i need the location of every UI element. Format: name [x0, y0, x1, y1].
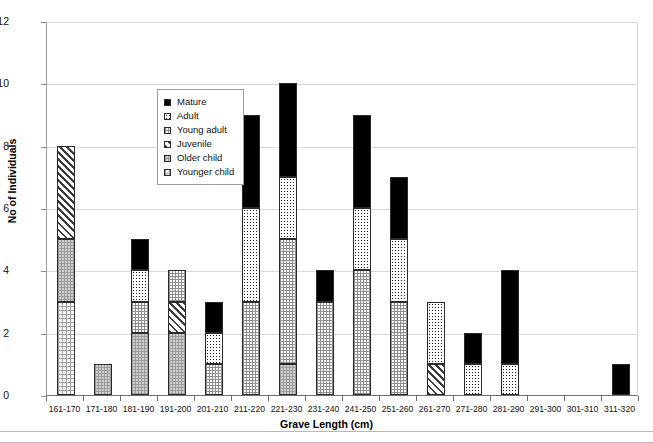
bar-211-220[interactable]: [242, 21, 260, 395]
x-tick-label-241-250: 241-250: [342, 404, 379, 414]
legend-item-young-adult[interactable]: Young adult: [164, 123, 234, 137]
bar-segment-181-190-mature[interactable]: [131, 239, 149, 270]
bar-segment-241-250-adult[interactable]: [353, 208, 371, 270]
bar-segment-181-190-adult[interactable]: [131, 270, 149, 301]
legend-swatch-mature-icon: [164, 99, 171, 106]
bar-segment-261-270-juvenile[interactable]: [427, 364, 445, 395]
x-tick-mark-3: [157, 396, 158, 401]
y-tick-label-6: 6: [0, 203, 9, 214]
bar-segment-161-170-older-child[interactable]: [57, 239, 75, 301]
bar-segment-251-260-adult[interactable]: [390, 239, 408, 301]
x-tick-mark-14: [564, 396, 565, 401]
bar-221-230[interactable]: [279, 21, 297, 395]
bar-231-240[interactable]: [316, 21, 334, 395]
bar-segment-161-170-juvenile[interactable]: [57, 146, 75, 240]
legend-swatch-older-child-icon: [164, 155, 171, 162]
legend: MatureAdultYoung adultJuvenileOlder chil…: [157, 89, 244, 185]
legend-swatch-adult-icon: [164, 113, 171, 120]
bar-191-200[interactable]: [168, 21, 186, 395]
bar-segment-231-240-mature[interactable]: [316, 270, 334, 301]
x-tick-label-171-180: 171-180: [83, 404, 120, 414]
legend-label-adult: Adult: [177, 111, 199, 121]
x-tick-mark-6: [268, 396, 269, 401]
bar-241-250[interactable]: [353, 21, 371, 395]
x-tick-mark-15: [601, 396, 602, 401]
x-tick-mark-16: [638, 396, 639, 401]
chart-container: No of Individuals 024681012 MatureAdultY…: [0, 0, 653, 443]
x-tick-mark-11: [453, 396, 454, 401]
x-tick-label-181-190: 181-190: [120, 404, 157, 414]
x-tick-mark-13: [527, 396, 528, 401]
bar-271-280[interactable]: [464, 21, 482, 395]
x-tick-label-281-290: 281-290: [490, 404, 527, 414]
legend-item-adult[interactable]: Adult: [164, 109, 234, 123]
x-tick-label-291-300: 291-300: [527, 404, 564, 414]
bar-segment-181-190-young-adult[interactable]: [131, 302, 149, 333]
bar-segment-241-250-mature[interactable]: [353, 115, 371, 209]
bar-segment-201-210-adult[interactable]: [205, 333, 223, 364]
bar-segment-251-260-young-adult[interactable]: [390, 302, 408, 396]
x-tick-label-301-310: 301-310: [564, 404, 601, 414]
x-tick-mark-12: [490, 396, 491, 401]
bar-segment-221-230-adult[interactable]: [279, 177, 297, 239]
bar-segment-251-260-mature[interactable]: [390, 177, 408, 239]
x-tick-mark-7: [305, 396, 306, 401]
legend-item-juvenile[interactable]: Juvenile: [164, 137, 234, 151]
bar-segment-181-190-older-child[interactable]: [131, 333, 149, 395]
x-tick-label-211-220: 211-220: [231, 404, 268, 414]
x-tick-mark-5: [231, 396, 232, 401]
bar-segment-281-290-mature[interactable]: [501, 270, 519, 364]
y-tick-label-0: 0: [0, 390, 9, 401]
bar-segment-201-210-mature[interactable]: [205, 302, 223, 333]
bar-segment-271-280-adult[interactable]: [464, 364, 482, 395]
bar-segment-171-180-older-child[interactable]: [94, 364, 112, 395]
x-axis-title: Grave Length (cm): [0, 418, 653, 430]
bar-segment-191-200-older-child[interactable]: [168, 333, 186, 395]
x-tick-mark-1: [83, 396, 84, 401]
bar-201-210[interactable]: [205, 21, 223, 395]
bar-segment-281-290-adult[interactable]: [501, 364, 519, 395]
x-tick-label-201-210: 201-210: [194, 404, 231, 414]
bar-segment-261-270-adult[interactable]: [427, 302, 445, 364]
y-tick-label-2: 2: [0, 328, 9, 339]
legend-label-younger-child: Younger child: [177, 167, 234, 177]
x-tick-mark-8: [342, 396, 343, 401]
bar-segment-211-220-young-adult[interactable]: [242, 302, 260, 396]
bar-segment-311-320-mature[interactable]: [612, 364, 630, 395]
x-tick-label-191-200: 191-200: [157, 404, 194, 414]
x-tick-label-161-170: 161-170: [46, 404, 83, 414]
bar-segment-241-250-young-adult[interactable]: [353, 270, 371, 395]
x-tick-mark-2: [120, 396, 121, 401]
bar-segment-211-220-adult[interactable]: [242, 208, 260, 302]
bar-segment-221-230-young-adult[interactable]: [279, 239, 297, 364]
x-tick-label-261-270: 261-270: [416, 404, 453, 414]
bar-segment-231-240-young-adult[interactable]: [316, 302, 334, 396]
bar-segment-191-200-juvenile[interactable]: [168, 302, 186, 333]
bar-segment-271-280-mature[interactable]: [464, 333, 482, 364]
legend-item-mature[interactable]: Mature: [164, 95, 234, 109]
bar-segment-221-230-older-child[interactable]: [279, 364, 297, 395]
legend-item-older-child[interactable]: Older child: [164, 151, 234, 165]
legend-label-young-adult: Young adult: [177, 125, 227, 135]
plot-area: MatureAdultYoung adultJuvenileOlder chil…: [46, 22, 638, 396]
bar-281-290[interactable]: [501, 21, 519, 395]
x-tick-mark-0: [46, 396, 47, 401]
bar-segment-221-230-mature[interactable]: [279, 83, 297, 177]
bar-161-170[interactable]: [57, 21, 75, 395]
bar-311-320[interactable]: [612, 21, 630, 395]
legend-item-younger-child[interactable]: Younger child: [164, 165, 234, 179]
legend-label-mature: Mature: [177, 97, 207, 107]
bar-251-260[interactable]: [390, 21, 408, 395]
bar-segment-161-170-younger-child[interactable]: [57, 302, 75, 396]
bar-181-190[interactable]: [131, 21, 149, 395]
bar-261-270[interactable]: [427, 21, 445, 395]
x-tick-label-251-260: 251-260: [379, 404, 416, 414]
x-tick-mark-9: [379, 396, 380, 401]
bar-171-180[interactable]: [94, 21, 112, 395]
bar-segment-201-210-young-adult[interactable]: [205, 364, 223, 395]
legend-label-juvenile: Juvenile: [177, 139, 212, 149]
legend-swatch-younger-child-icon: [164, 169, 171, 176]
x-tick-label-311-320: 311-320: [601, 404, 638, 414]
bar-segment-191-200-young-adult[interactable]: [168, 270, 186, 301]
x-tick-mark-10: [416, 396, 417, 401]
